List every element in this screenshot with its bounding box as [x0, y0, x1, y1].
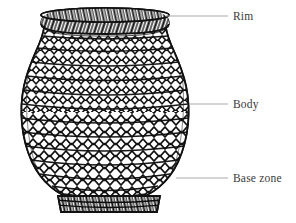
annotation-label-base-zone: Base zone [233, 173, 282, 185]
annotation-label-rim: Rim [233, 11, 253, 23]
vessel-illustration [0, 0, 296, 223]
vessel-base-zone [54, 194, 166, 214]
vessel-rim [38, 6, 172, 36]
vessel-diagram: Rim Body Base zone [0, 0, 296, 223]
vessel-body [18, 26, 194, 204]
annotation-label-body: Body [233, 99, 259, 111]
